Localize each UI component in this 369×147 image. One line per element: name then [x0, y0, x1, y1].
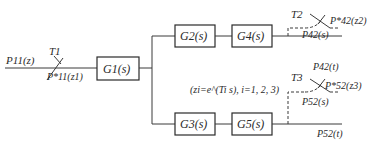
lower-sampled-label: P*52(z3) — [324, 80, 362, 92]
block-g4-label: G4(s) — [237, 29, 264, 43]
upper-time-signal-label: P42(t) — [312, 61, 339, 73]
sampler-t1-tick — [54, 56, 61, 64]
sampler-t2-label: T2 — [291, 8, 303, 20]
upper-sampled-label: P*42(z2) — [329, 15, 367, 27]
upper-continuous-label: P42(s) — [301, 29, 329, 41]
lower-dashed-curve — [305, 85, 321, 92]
lower-continuous-label: P52(s) — [301, 96, 329, 108]
sampler-t3-label: T3 — [291, 71, 303, 83]
upper-dashed-curve — [305, 21, 321, 28]
block-g1-label: G1(s) — [103, 62, 130, 76]
sampler-t1-label: T1 — [49, 45, 61, 57]
lower-time-signal-label: P52(t) — [316, 128, 343, 140]
block-g3-label: G3(s) — [180, 117, 207, 131]
block-g2-label: G2(s) — [180, 29, 207, 43]
input-signal-label: P11(z) — [5, 54, 35, 67]
z-definition-note: (zi=e^(Ti s), i=1, 2, 3) — [190, 84, 280, 96]
block-g5-label: G5(s) — [237, 117, 264, 131]
sampled-input-label: P*11(z1) — [46, 71, 84, 83]
block-diagram: P11(z) T1 P*11(z1) G1(s) G2(s) G4(s) G3(… — [0, 0, 369, 147]
